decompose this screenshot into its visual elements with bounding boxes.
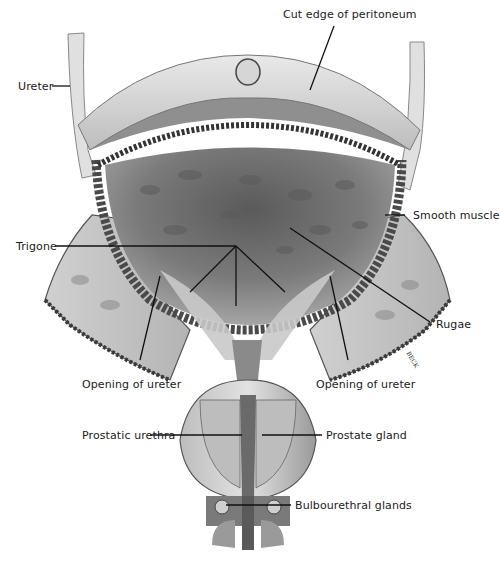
label-bulbourethral-glands: Bulbourethral glands — [295, 499, 412, 512]
label-smooth-muscle: Smooth muscle — [413, 209, 500, 222]
label-prostate-gland: Prostate gland — [326, 429, 407, 442]
label-cut-edge-peritoneum: Cut edge of peritoneum — [283, 8, 417, 21]
ureter-left — [68, 33, 96, 178]
label-opening-ureter-left: Opening of ureter — [82, 378, 181, 391]
label-rugae: Rugae — [436, 318, 471, 331]
prostate — [180, 380, 316, 500]
label-opening-ureter-right: Opening of ureter — [316, 378, 415, 391]
label-ureter: Ureter — [18, 80, 53, 93]
label-trigone: Trigone — [16, 240, 57, 253]
label-prostatic-urethra: Prostatic urethra — [82, 429, 175, 442]
bulbourethral-region — [206, 496, 290, 550]
urachus-knob — [236, 59, 260, 85]
